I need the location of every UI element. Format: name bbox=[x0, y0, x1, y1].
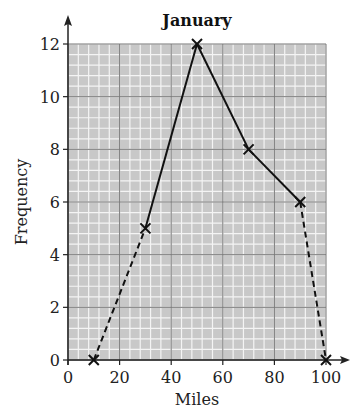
y-tick-label: 4 bbox=[50, 246, 60, 265]
y-tick-label: 10 bbox=[40, 88, 60, 107]
y-tick-label: 12 bbox=[40, 35, 60, 54]
x-tick-label: 100 bbox=[311, 368, 342, 387]
x-tick-label: 40 bbox=[161, 368, 181, 387]
y-tick-label: 6 bbox=[50, 193, 60, 212]
x-axis-label: Miles bbox=[175, 390, 219, 409]
x-tick-label: 20 bbox=[109, 368, 129, 387]
frequency-polygon-chart: 020406080100024681012 January Miles Freq… bbox=[0, 0, 359, 411]
x-tick-label: 80 bbox=[264, 368, 284, 387]
x-tick-label: 0 bbox=[63, 368, 73, 387]
y-axis-label: Frequency bbox=[12, 159, 31, 246]
x-tick-label: 60 bbox=[213, 368, 233, 387]
y-tick-label: 0 bbox=[50, 351, 60, 370]
y-tick-label: 8 bbox=[50, 140, 60, 159]
grid bbox=[68, 44, 326, 360]
y-tick-label: 2 bbox=[50, 298, 60, 317]
chart-title: January bbox=[160, 11, 232, 30]
